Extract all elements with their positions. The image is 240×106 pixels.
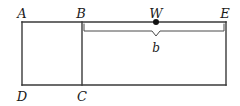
diagram-canvas (0, 0, 240, 106)
vertex-label-C: C (77, 90, 87, 103)
vertex-label-E: E (220, 7, 230, 20)
brace-measure-b (84, 24, 224, 36)
vertex-label-D: D (17, 90, 27, 103)
vertex-label-A: A (17, 7, 26, 20)
vertex-label-B: B (76, 7, 86, 20)
vertex-label-W: W (149, 7, 162, 20)
geometry-figure: A B W E D C b (0, 0, 240, 106)
measure-label-b: b (152, 42, 160, 54)
